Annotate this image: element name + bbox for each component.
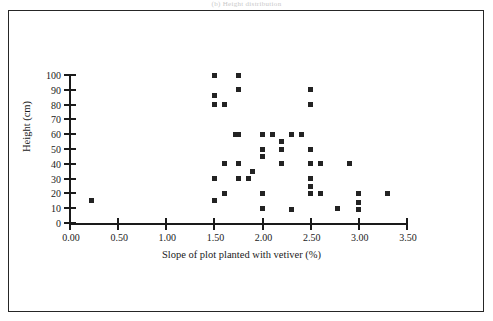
scatter-point [356,207,361,212]
scatter-point [279,161,284,166]
scatter-point [236,161,241,166]
scatter-point [260,147,265,152]
scatter-point [222,161,227,166]
scatter-point [299,132,304,137]
scatter-point [212,198,217,203]
scatter-point [385,191,390,196]
scatter-point [308,147,313,152]
scatter-point [236,176,241,181]
scatter-point [260,154,265,159]
scatter-point [212,73,217,78]
scatter-point [289,132,294,137]
scatter-point [236,132,241,137]
clipped-caption-text: (b) Height distribution [0,0,493,9]
scatter-point [308,191,313,196]
figure-frame-border: 0.000.501.001.502.002.503.003.50 0102030… [8,10,484,312]
scatter-point [260,132,265,137]
scatter-point [270,132,275,137]
scatter-point [279,139,284,144]
y-axis-title: Height (cm) [21,72,32,182]
scatter-point [318,191,323,196]
scatter-point [236,73,241,78]
scatter-point [308,176,313,181]
scatter-point [250,169,255,174]
scatter-point [212,93,217,98]
x-axis-title: Slope of plot planted with vetiver (%) [69,249,414,260]
scatter-point [308,102,313,107]
scatter-point [356,191,361,196]
scatter-point [212,102,217,107]
scatter-point [318,161,323,166]
scatter-point [89,198,94,203]
plot-area: 0.000.501.001.502.002.503.003.50 0102030… [9,11,485,313]
scatter-point [246,176,251,181]
scatter-point [222,102,227,107]
scatter-point [222,191,227,196]
scatter-point [279,147,284,152]
scatter-point [212,176,217,181]
scatter-point [260,191,265,196]
scatter-point [308,184,313,189]
scatter-point [335,206,340,211]
scatter-points-layer [9,11,485,313]
scatter-point [289,207,294,212]
scatter-point [356,200,361,205]
scatter-point [236,87,241,92]
scatter-point [260,206,265,211]
scatter-point [308,161,313,166]
scatter-point [308,87,313,92]
scatter-point [347,161,352,166]
figure-root: (b) Height distribution 0.000.501.001.50… [0,0,493,321]
